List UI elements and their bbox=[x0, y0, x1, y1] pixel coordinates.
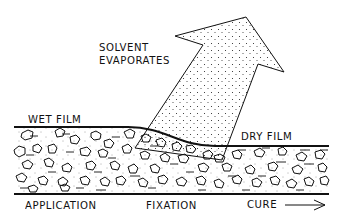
stage-application-label: APPLICATION bbox=[25, 200, 97, 212]
stage-fixation-label: FIXATION bbox=[146, 200, 197, 212]
stage-cure-label: CURE bbox=[247, 199, 277, 211]
wet-film-label: WET FILM bbox=[28, 114, 81, 126]
solvent-label-line2: EVAPORATES bbox=[99, 55, 170, 67]
dry-film-label: DRY FILM bbox=[241, 131, 292, 143]
solvent-label-line1: SOLVENT bbox=[99, 42, 149, 54]
cure-arrow-icon bbox=[285, 200, 325, 210]
film-drying-diagram: SOLVENT EVAPORATES WET FILM DRY FILM APP… bbox=[0, 0, 345, 224]
diagram-canvas bbox=[0, 0, 345, 224]
